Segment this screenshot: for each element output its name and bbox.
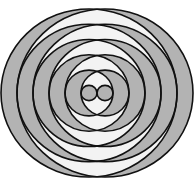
concentric-circles-diagram — [0, 0, 194, 185]
diagram-canvas — [0, 0, 194, 185]
